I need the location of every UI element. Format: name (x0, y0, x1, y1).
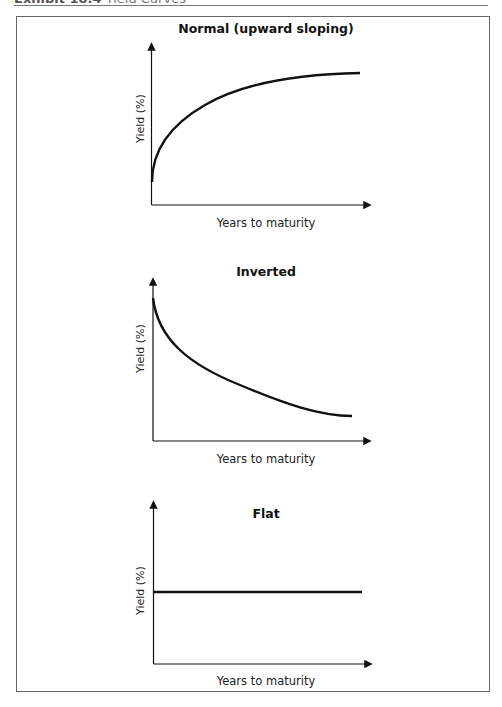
y-axis-label-flat: Yield (%) (134, 551, 147, 631)
x-axis-label-inverted: Years to maturity (146, 452, 386, 466)
chart-inverted (153, 279, 370, 441)
charts-canvas (0, 0, 502, 707)
chart-flat (154, 502, 372, 664)
yield-curve (152, 73, 360, 182)
y-axis-label-inverted: Yield (%) (134, 309, 147, 389)
chart-title-inverted: Inverted (116, 264, 416, 279)
chart-normal (152, 44, 371, 205)
x-axis-label-flat: Years to maturity (146, 674, 386, 688)
x-axis-label-normal: Years to maturity (146, 216, 386, 230)
y-axis-label-normal: Yield (%) (134, 79, 147, 159)
chart-title-normal: Normal (upward sloping) (116, 21, 416, 36)
yield-curve (153, 298, 352, 416)
chart-title-flat: Flat (116, 506, 416, 521)
